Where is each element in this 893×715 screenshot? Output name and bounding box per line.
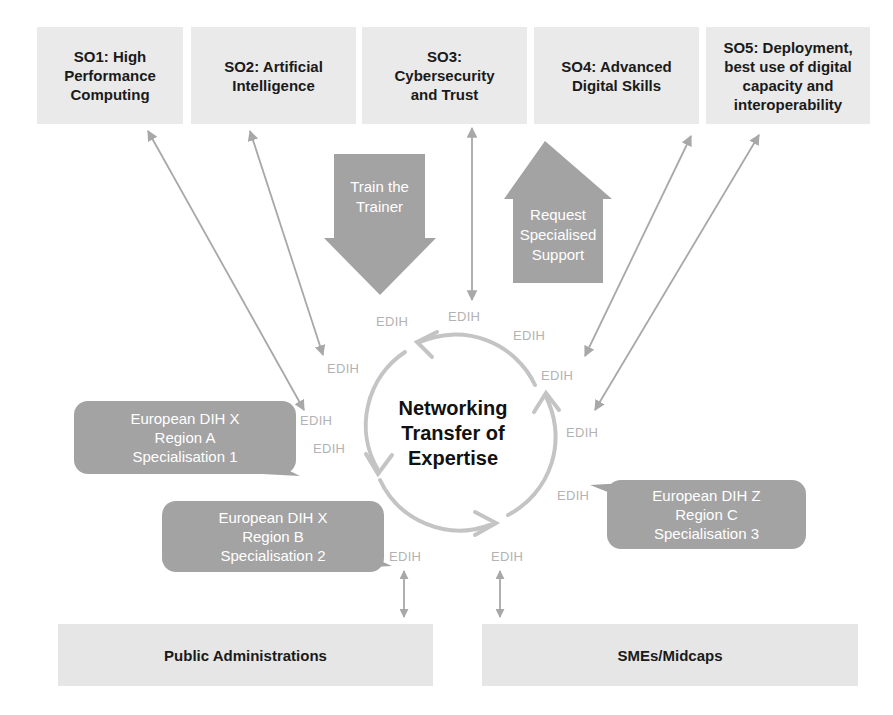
smes-midcaps-label: SMEs/Midcaps (617, 647, 722, 664)
edih-label: EDIH (557, 488, 589, 503)
edih-label: EDIH (389, 549, 421, 564)
edih-label: EDIH (376, 314, 408, 329)
edih-label: EDIH (300, 413, 332, 428)
edih-label: EDIH (491, 549, 523, 564)
edih-label: EDIH (566, 425, 598, 440)
center-label: Networking Transfer of Expertise (399, 397, 508, 469)
hub-b-label: European DIH X Region B Specialisation 2 (218, 508, 327, 565)
hub-bubble-region-b: European DIH X Region B Specialisation 2 (162, 501, 384, 572)
train-the-trainer-arrow (324, 154, 436, 295)
diagram-arrows (0, 0, 893, 715)
edih-label: EDIH (448, 309, 480, 324)
edih-label: EDIH (513, 328, 545, 343)
hub-a-label: European DIH X Region A Specialisation 1 (130, 409, 239, 466)
hub-c-label: European DIH Z Region C Specialisation 3 (652, 486, 760, 543)
hub-bubble-region-a: European DIH X Region A Specialisation 1 (74, 401, 296, 474)
hub-bubble-region-c: European DIH Z Region C Specialisation 3 (607, 480, 806, 549)
edih-label: EDIH (541, 368, 573, 383)
public-administrations-box: Public Administrations (58, 624, 433, 686)
edih-label: EDIH (313, 441, 345, 456)
edih-label: EDIH (327, 361, 359, 376)
so5-connector (595, 135, 759, 410)
train-the-trainer-label: Train the Trainer (334, 177, 425, 217)
networking-center: Networking Transfer of Expertise (378, 396, 528, 471)
public-administrations-label: Public Administrations (164, 647, 327, 664)
so1-connector (148, 131, 304, 410)
so2-connector (250, 131, 323, 355)
smes-midcaps-box: SMEs/Midcaps (482, 624, 858, 686)
request-support-label: Request Specialised Support (513, 205, 603, 265)
